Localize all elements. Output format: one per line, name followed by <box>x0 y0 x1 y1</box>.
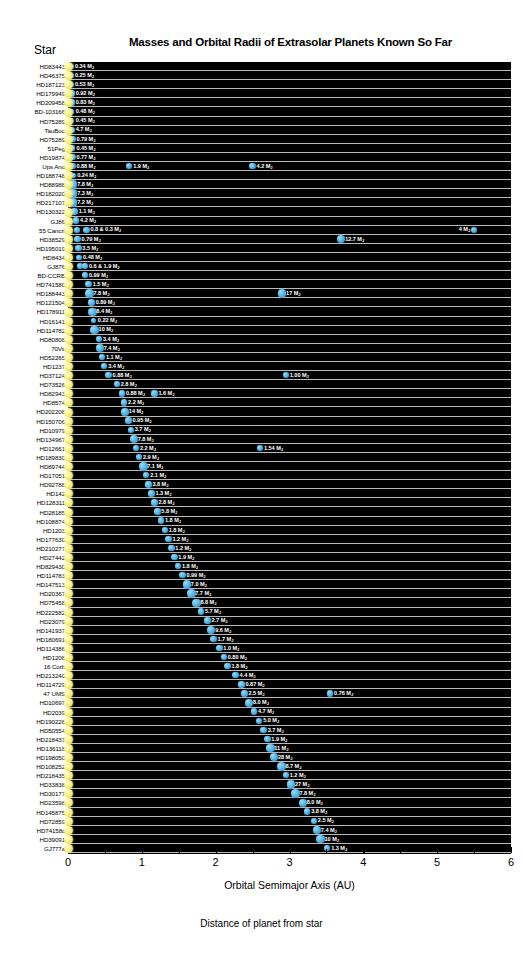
planet-mass-label: 7.1 MJ <box>147 462 163 471</box>
planet-marker <box>257 445 263 451</box>
planet-row: BD-1031660.48 MJ <box>68 107 511 116</box>
planet-row: HD927883.8 MJ <box>68 480 511 489</box>
x-axis-tick-label: 0 <box>65 856 71 868</box>
planet-marker <box>313 826 321 834</box>
planet-marker <box>90 326 98 334</box>
planet-marker <box>249 163 255 169</box>
star-name-label: GJ86 <box>2 217 68 226</box>
x-axis-label: Orbital Semimajor Axis (AU) <box>68 879 511 891</box>
star-name-label: HD187123 <box>2 80 68 89</box>
planet-mass-label: 8.0 MJ <box>253 698 269 707</box>
planet-mass-label: 0.83 MJ <box>76 98 95 107</box>
planet-mass-label: 11 MJ <box>274 744 288 753</box>
planet-row: HD1789118.4 MJ <box>68 307 511 316</box>
star-name-label: HD1208 <box>2 653 68 662</box>
star-name-label: HD16141 <box>2 317 68 326</box>
planet-marker <box>207 626 215 634</box>
planet-mass-label: 0.45 MJ <box>76 116 95 125</box>
star-name-label: HD12661 <box>2 444 68 453</box>
planet-row: 16 Corb1.8 MJ <box>68 662 511 671</box>
plot-area: HD834430.34 MJHD463750.25 MJHD1871230.53… <box>68 62 511 853</box>
planet-row: HD2184351.2 MJ <box>68 771 511 780</box>
planet-marker <box>187 589 195 597</box>
planet-row: GJ8760.6 & 1.9 MJ <box>68 262 511 271</box>
planet-marker <box>291 789 299 797</box>
planet-marker <box>71 208 77 214</box>
planet-mass-label: 0.88 MJ <box>113 371 132 380</box>
x-axis-tick <box>437 847 438 853</box>
planet-mass-label: 3.8 MJ <box>311 807 327 816</box>
star-name-label: HD213240 <box>2 671 68 680</box>
planet-row: HD85742.2 MJ <box>68 398 511 407</box>
planet-marker <box>204 617 210 623</box>
planet-row: HD735262.8 MJ <box>68 380 511 389</box>
planet-marker <box>266 744 274 752</box>
planet-marker <box>165 536 171 542</box>
planet-marker <box>311 818 317 824</box>
star-name-label: HD10697 <box>2 698 68 707</box>
x-axis-tick-label: 2 <box>213 856 219 868</box>
planet-mass-label: 4.4 MJ <box>240 671 256 680</box>
planet-marker <box>304 808 310 814</box>
planet-marker <box>128 427 134 433</box>
star-name-label: GJ777a <box>2 844 68 853</box>
planet-row: HD752890.45 MJ <box>68 117 511 126</box>
star-name-label: HD2039 <box>2 708 68 717</box>
planet-marker <box>221 654 227 660</box>
planet-marker <box>69 180 77 188</box>
planet-marker <box>88 308 96 316</box>
planet-row: BD-CCRB0.99 MJ <box>68 271 511 280</box>
planet-row: HD1088741.8 MJ <box>68 517 511 526</box>
star-name-label: 70Vir <box>2 344 68 353</box>
planet-mass-label: 2.1 MJ <box>150 471 166 480</box>
planet-mass-label: 0.87 MJ <box>246 680 265 689</box>
planet-mass-label: 4.7 MJ <box>258 707 274 716</box>
planet-mass-label: 0.99 MJ <box>89 271 108 280</box>
planet-marker <box>260 727 266 733</box>
star-name-label: HD89744 <box>2 462 68 471</box>
planet-marker <box>74 236 80 242</box>
x-axis-tick-label: 1 <box>139 856 145 868</box>
planet-marker <box>198 608 204 614</box>
planet-mass-label: 2.7 MJ <box>212 616 228 625</box>
planet-mass-label: 1.5 MJ <box>93 280 109 289</box>
x-axis-tick <box>511 847 512 853</box>
planet-mass-label: 0.48 MJ <box>83 253 102 262</box>
planet-marker <box>91 318 96 323</box>
star-name-label: HD190226 <box>2 717 68 726</box>
planet-mass-label: 0.76 MJ <box>334 689 353 698</box>
planet-marker <box>69 99 75 105</box>
planet-mass-label: 2.5 MJ <box>248 689 264 698</box>
planet-marker <box>69 127 75 133</box>
planet-marker <box>136 454 142 460</box>
planet-row: HD1898302.9 MJ <box>68 453 511 462</box>
star-name-label: HD829430 <box>2 562 68 571</box>
planet-marker <box>101 363 107 369</box>
planet-mass-label: 1.3 MJ <box>331 844 347 853</box>
star-name-label: 51Peg <box>2 144 68 153</box>
planet-row: HD1143861.0 MJ <box>68 644 511 653</box>
planet-mass-label: 1.54 MJ <box>264 444 283 453</box>
planet-mass-label: 1.7 MJ <box>217 635 233 644</box>
star-name-label: HD52265 <box>2 353 68 362</box>
planet-marker <box>126 163 132 169</box>
planet-marker <box>85 289 93 297</box>
star-name-label: HD217107 <box>2 198 68 207</box>
planet-row: 55 Cancrf0.8 & 0.3 MJ4 MJ <box>68 226 511 235</box>
planet-mass-label: 7.4 MJ <box>321 826 337 835</box>
planet-marker <box>83 227 89 233</box>
planet-mass-label: 7.4 MJ <box>104 344 120 353</box>
planet-marker <box>70 145 75 150</box>
planet-mass-label: 2.8 MJ <box>158 498 174 507</box>
planet-marker <box>224 663 230 669</box>
planet-marker <box>143 472 149 478</box>
star-name-label: HD88988 <box>2 180 68 189</box>
planet-marker <box>192 599 200 607</box>
planet-mass-label: 10 MJ <box>99 325 113 334</box>
planet-marker <box>82 272 88 278</box>
star-name-label: HD28185 <box>2 508 68 517</box>
planet-row: HD161410.22 MJ <box>68 317 511 326</box>
planet-row: HD13611811 MJ <box>68 744 511 753</box>
star-name-label: HD177630 <box>2 535 68 544</box>
x-axis-tick <box>68 847 69 853</box>
